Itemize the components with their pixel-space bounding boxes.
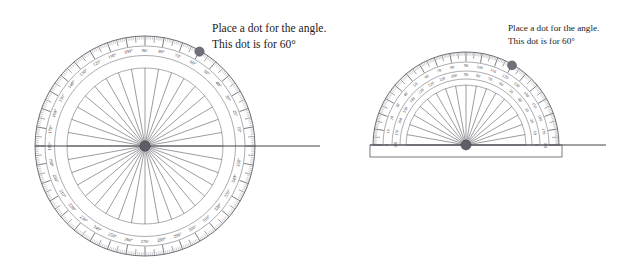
- tick-mark: [65, 219, 68, 221]
- tick-mark: [80, 57, 82, 60]
- tick-mark: [71, 225, 73, 228]
- tick-mark: [205, 55, 207, 58]
- tick-mark: [400, 79, 405, 84]
- tick-mark: [82, 56, 86, 61]
- tick-mark: [211, 59, 213, 62]
- tick-mark: [230, 83, 235, 87]
- tick-mark: [390, 92, 395, 96]
- tick-mark: [120, 39, 121, 43]
- tick-mark: [38, 121, 42, 122]
- tick-mark: [222, 70, 225, 73]
- tick-mark: [176, 41, 177, 44]
- tick-mark: [442, 55, 444, 61]
- tick-mark: [219, 67, 222, 70]
- outer-scale-label: 20: [389, 115, 395, 121]
- circular-protractor[interactable]: 10°20°30°40°50°60°70°80°90°100°110°120°1…: [35, 36, 320, 256]
- tick-mark: [70, 66, 72, 69]
- tick-mark: [375, 127, 379, 128]
- tick-mark: [85, 54, 87, 57]
- degree-label: 120°: [92, 58, 102, 67]
- tick-mark: [38, 172, 41, 173]
- tick-mark: [249, 166, 253, 167]
- tick-mark: [384, 101, 387, 103]
- degree-label: 290°: [173, 231, 183, 239]
- tick-mark: [219, 223, 222, 226]
- tick-mark: [55, 205, 60, 209]
- tick-mark: [542, 96, 545, 98]
- tick-mark: [231, 209, 234, 211]
- tick-mark: [111, 41, 112, 44]
- tick-mark: [63, 72, 66, 74]
- tick-mark: [248, 136, 254, 137]
- tick-mark: [79, 58, 81, 61]
- tick-mark: [551, 115, 554, 116]
- tick-mark: [387, 96, 390, 98]
- tick-mark: [247, 114, 250, 115]
- tick-mark: [179, 240, 182, 249]
- tick-mark: [61, 75, 68, 81]
- degree-label: 100°: [124, 48, 134, 54]
- tick-mark: [187, 244, 188, 247]
- tick-mark: [249, 125, 253, 126]
- outer-scale-label: 120: [502, 73, 510, 80]
- tick-mark: [118, 249, 119, 252]
- tick-mark: [230, 80, 233, 82]
- tick-mark: [553, 123, 557, 124]
- tick-mark: [109, 247, 110, 250]
- degree-label: 260°: [124, 236, 134, 242]
- tick-mark: [48, 94, 51, 96]
- tick-mark: [174, 248, 175, 251]
- tick-mark: [172, 40, 174, 46]
- tick-mark: [169, 250, 170, 254]
- tick-mark: [480, 53, 481, 57]
- degree-label: 20°: [232, 109, 239, 117]
- tick-mark: [375, 124, 379, 125]
- tick-mark: [238, 93, 241, 95]
- tick-mark: [192, 242, 194, 245]
- tick-mark: [113, 41, 114, 44]
- tick-mark: [386, 97, 389, 99]
- tick-mark: [549, 112, 552, 113]
- tick-mark: [552, 119, 555, 120]
- tick-mark: [546, 104, 549, 106]
- tick-mark: [379, 113, 388, 116]
- degree-label: 280°: [157, 236, 167, 242]
- tick-mark: [445, 54, 446, 58]
- inner-scale-label: 30: [524, 107, 530, 113]
- tick-mark: [83, 55, 85, 58]
- tick-mark: [88, 52, 90, 55]
- tick-mark: [447, 54, 448, 58]
- outer-scale-label: 150: [531, 102, 538, 110]
- tick-mark: [200, 237, 202, 240]
- tick-mark: [53, 204, 56, 206]
- tick-mark: [54, 206, 57, 208]
- tick-mark: [76, 229, 78, 232]
- tick-mark: [391, 90, 394, 92]
- angle-dot-marker[interactable]: [195, 47, 204, 56]
- tick-mark: [554, 130, 558, 131]
- degree-label: 250°: [108, 231, 118, 239]
- tick-mark: [208, 57, 210, 60]
- tick-mark: [80, 232, 82, 235]
- tick-mark: [439, 56, 440, 59]
- outer-scale-label: 90: [464, 63, 468, 68]
- tick-mark: [551, 118, 554, 119]
- tick-mark: [118, 39, 119, 42]
- semicircular-protractor[interactable]: 0102030405060708090100110120130140150160…: [370, 52, 606, 157]
- tick-mark: [42, 180, 51, 183]
- tick-mark: [397, 83, 400, 85]
- tick-mark: [37, 123, 41, 124]
- tick-mark: [50, 196, 58, 201]
- angle-dot-marker[interactable]: [508, 61, 517, 70]
- tick-mark: [115, 40, 116, 43]
- degree-label: 70°: [174, 52, 182, 59]
- tick-mark: [37, 125, 41, 126]
- tick-mark: [248, 119, 251, 120]
- tick-mark: [183, 43, 184, 46]
- tick-mark: [233, 84, 236, 86]
- tick-mark: [401, 78, 404, 81]
- tick-mark: [520, 71, 522, 74]
- tick-mark: [41, 181, 44, 182]
- tick-mark: [246, 112, 249, 113]
- tick-mark: [56, 81, 59, 83]
